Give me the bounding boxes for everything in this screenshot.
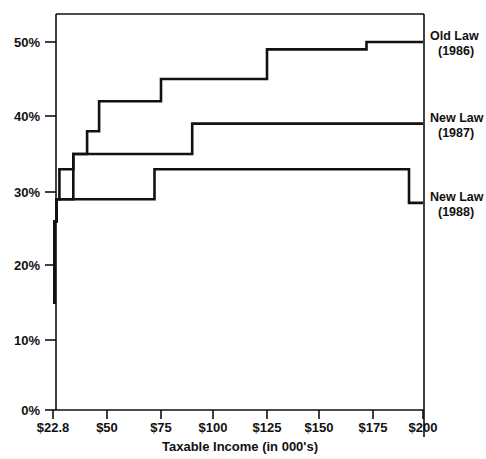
x-tick-label-group: $22.8$50$75$100$125$150$175$200 [37, 420, 438, 435]
series-path-group [53, 42, 423, 303]
series-label-line1: New Law [430, 190, 484, 204]
y-tick-label: 30% [14, 185, 40, 200]
series-label-line2: (1986) [438, 44, 474, 58]
series-label-line1: Old Law [430, 29, 479, 43]
series-label-line2: (1988) [438, 205, 474, 219]
chart-canvas: 0%10%20%30%40%50% $22.8$50$75$100$125$15… [0, 0, 486, 459]
x-tick-label: $200 [409, 420, 438, 435]
x-tick-group [53, 410, 423, 419]
series-label-line2: (1987) [438, 126, 474, 140]
y-tick-label: 10% [14, 333, 40, 348]
series-step-line-2 [53, 124, 423, 303]
plot-axes [56, 14, 424, 437]
series-label-line1: New Law [430, 111, 484, 125]
x-tick-label: $22.8 [37, 420, 70, 435]
x-tick-label: $150 [305, 420, 334, 435]
x-tick-label: $175 [359, 420, 388, 435]
x-tick-label: $125 [253, 420, 282, 435]
series-step-line-1 [53, 42, 423, 303]
tax-rate-step-chart: 0%10%20%30%40%50% $22.8$50$75$100$125$15… [0, 0, 486, 459]
x-axis-title: Taxable Income (in 000's) [162, 439, 318, 454]
x-tick-label: $50 [96, 420, 118, 435]
y-tick-label: 0% [21, 403, 40, 418]
series-label-group: Old Law(1986)New Law(1987)New Law(1988) [430, 29, 484, 219]
y-tick-label: 50% [14, 35, 40, 50]
x-tick-label: $100 [199, 420, 228, 435]
series-step-line-3 [53, 169, 423, 302]
x-tick-label: $75 [150, 420, 172, 435]
y-tick-label: 20% [14, 258, 40, 273]
y-tick-label-group: 0%10%20%30%40%50% [14, 35, 40, 418]
y-tick-label: 40% [14, 109, 40, 124]
